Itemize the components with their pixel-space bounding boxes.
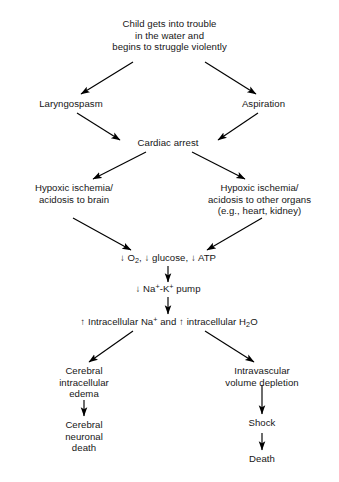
node-line: begins to struggle violently [0, 41, 339, 53]
flowchart-edges [0, 0, 339, 482]
node-line: Death [202, 453, 322, 465]
node-death: Death [202, 453, 322, 465]
node-line: acidosis to other organs [180, 194, 339, 206]
node-increased-intracellular-na-h2o: ↑ Intracellular Na+ and ↑ intracellular … [24, 316, 314, 328]
o2-prefix: ↓ O [120, 252, 135, 263]
node-shock: Shock [202, 417, 322, 429]
intracellular-mid: and ↑ intracellular H [158, 316, 247, 327]
node-line: Laryngospasm [0, 98, 142, 110]
node-line: ↓ Na+-K+ pump [78, 283, 258, 295]
node-aspiration: Aspiration [196, 98, 331, 110]
edge-cardiac-arrest-to-hypoxic-brain [93, 152, 146, 179]
node-decreased-na-k-pump: ↓ Na+-K+ pump [78, 283, 258, 295]
node-line: Child gets into trouble [0, 18, 339, 30]
node-line: intracellular [16, 377, 152, 389]
edge-child-to-laryngospasm [81, 62, 133, 94]
node-cerebral-intracellular-edema: Cerebral intracellular edema [16, 365, 152, 400]
pump-mid: -K [160, 283, 170, 294]
node-line: Cerebral [16, 365, 152, 377]
node-line: Hypoxic ischemia/ [0, 182, 148, 194]
edge-intracellular-to-intravascular-depletion [205, 331, 254, 362]
o2-suffix: , ↓ glucose, ↓ ATP [139, 252, 216, 263]
edge-intracellular-to-cerebral-edema [89, 331, 133, 362]
intracellular-prefix: ↑ Intracellular Na [80, 316, 153, 327]
node-child-gets-into-trouble: Child gets into trouble in the water and… [0, 18, 339, 53]
node-intravascular-volume-depletion: Intravascular volume depletion [189, 365, 335, 388]
edge-laryngospasm-to-cardiac-arrest [77, 113, 120, 140]
edge-hypoxic-brain-to-o2 [73, 218, 131, 250]
node-decreased-o2-glucose-atp: ↓ O2, ↓ glucose, ↓ ATP [48, 252, 288, 264]
pump-suffix: pump [174, 283, 201, 294]
node-hypoxic-ischemia-brain: Hypoxic ischemia/ acidosis to brain [0, 182, 148, 205]
node-line: volume depletion [189, 377, 335, 389]
pump-prefix: ↓ Na [135, 283, 155, 294]
node-line: neuronal [16, 431, 152, 443]
node-laryngospasm: Laryngospasm [0, 98, 142, 110]
node-line: Hypoxic ischemia/ [180, 182, 339, 194]
node-line: ↑ Intracellular Na+ and ↑ intracellular … [24, 316, 314, 328]
node-line: (e.g., heart, kidney) [180, 205, 339, 217]
node-line: in the water and [0, 30, 339, 42]
node-line: death [16, 442, 152, 454]
intracellular-suffix: O [250, 316, 258, 327]
edge-cardiac-arrest-to-hypoxic-organs [192, 152, 245, 179]
node-line: Cardiac arrest [104, 137, 232, 149]
edge-aspiration-to-cardiac-arrest [218, 113, 258, 140]
node-cerebral-neuronal-death: Cerebral neuronal death [16, 419, 152, 454]
edge-hypoxic-organs-to-o2 [207, 218, 262, 250]
node-line: Cerebral [16, 419, 152, 431]
node-line: ↓ O2, ↓ glucose, ↓ ATP [48, 252, 288, 264]
node-hypoxic-ischemia-other-organs: Hypoxic ischemia/ acidosis to other orga… [180, 182, 339, 217]
node-line: Intravascular [189, 365, 335, 377]
drowning-pathophysiology-flowchart: Child gets into trouble in the water and… [0, 0, 339, 482]
edge-child-to-aspiration [205, 62, 256, 94]
node-line: Aspiration [196, 98, 331, 110]
node-cardiac-arrest: Cardiac arrest [104, 137, 232, 149]
node-line: edema [16, 388, 152, 400]
node-line: acidosis to brain [0, 194, 148, 206]
node-line: Shock [202, 417, 322, 429]
